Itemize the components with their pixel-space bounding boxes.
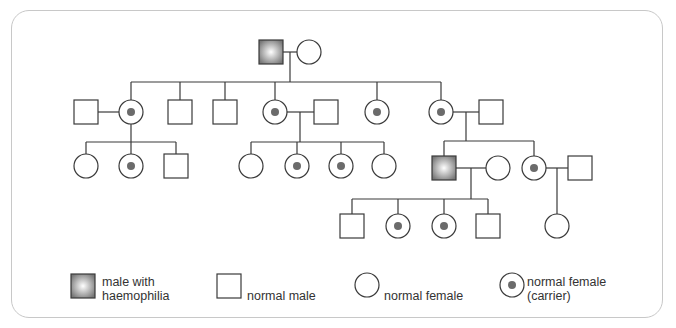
legend-affected-male: male with haemophilia (102, 275, 169, 303)
legend-normal-female: normal female (384, 289, 463, 303)
normal-male (314, 100, 338, 124)
normal-male (476, 214, 500, 238)
normal-male (568, 156, 592, 180)
legend-normal-male: normal male (247, 289, 316, 303)
legend-normal-female-icon (355, 273, 379, 297)
normal-male (74, 100, 98, 124)
normal-female (239, 154, 263, 178)
normal-female (297, 40, 321, 64)
legend-normal-male-icon (217, 274, 241, 298)
normal-male (213, 100, 237, 124)
normal-male (479, 100, 503, 124)
normal-male (168, 100, 192, 124)
normal-female (486, 156, 510, 180)
normal-female (74, 154, 98, 178)
normal-male (164, 154, 188, 178)
normal-male (340, 214, 364, 238)
legend-affected-male-icon (71, 274, 95, 298)
normal-female (372, 154, 396, 178)
legend-carrier-female: normal female (carrier) (527, 275, 606, 303)
affected-male (432, 156, 456, 180)
normal-female (545, 214, 569, 238)
affected-male (259, 40, 283, 64)
